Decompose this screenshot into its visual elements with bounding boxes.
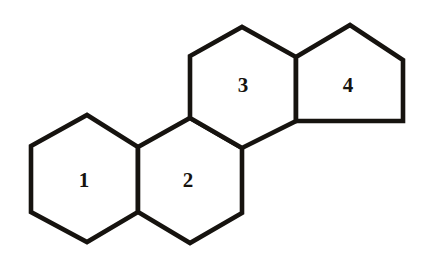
ring-3-label: 3 [238,75,249,96]
ring-shapes-group [31,25,403,243]
ring-1-label: 1 [79,170,90,191]
ring-4-label: 4 [343,75,354,96]
ring-2-label: 2 [183,170,194,191]
ring-diagram-canvas: 1 2 3 4 [0,0,433,257]
ring-skeleton-svg [0,0,433,257]
